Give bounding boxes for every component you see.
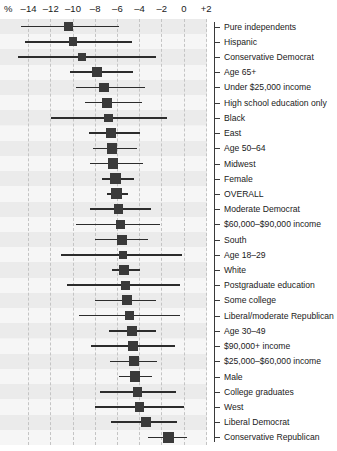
bracket-tick — [214, 87, 220, 88]
category-label: Age 18–29 — [224, 250, 266, 260]
gridline — [161, 19, 163, 445]
category-label: Some college — [224, 295, 276, 305]
bracket-tick — [214, 179, 220, 180]
bracket-tick — [214, 331, 220, 332]
category-label: Age 65+ — [224, 67, 256, 77]
bracket-tick — [214, 285, 220, 286]
category-label: Male — [224, 372, 243, 382]
category-labels-column: Pure independentsHispanicConservative De… — [207, 19, 337, 445]
bracket-tick — [214, 133, 220, 134]
bracket-tick — [214, 422, 220, 423]
bracket-tick — [214, 224, 220, 225]
category-label: Female — [224, 174, 253, 184]
estimate-marker — [69, 37, 78, 46]
bracket-tick — [214, 72, 220, 73]
confidence-interval-whisker — [76, 87, 145, 89]
bracket-tick — [214, 346, 220, 347]
bracket-tick — [214, 103, 220, 104]
confidence-interval-whisker — [85, 102, 142, 104]
category-label: Under $25,000 income — [224, 82, 311, 92]
axis-tick-label: +2 — [201, 4, 212, 14]
estimate-marker — [106, 128, 116, 138]
category-label: Moderate Democrat — [224, 204, 300, 214]
bracket-tick — [214, 407, 220, 408]
estimate-marker — [92, 67, 102, 77]
estimate-marker — [99, 83, 109, 93]
gridline — [95, 19, 97, 445]
category-label: OVERALL — [224, 189, 264, 199]
gridline — [28, 19, 30, 445]
row-band — [0, 323, 207, 338]
estimate-marker — [111, 188, 122, 199]
axis-tick-label: –8 — [90, 4, 101, 14]
gridline — [50, 19, 52, 445]
bracket-tick — [214, 255, 220, 256]
bracket-tick — [214, 118, 220, 119]
gridline — [73, 19, 75, 445]
row-band — [0, 354, 207, 369]
category-label: White — [224, 265, 246, 275]
category-label: East — [224, 128, 241, 138]
estimate-marker — [127, 326, 137, 336]
estimate-marker — [114, 204, 124, 214]
category-label: South — [224, 235, 246, 245]
bracket-tick — [214, 164, 220, 165]
confidence-interval-whisker — [18, 56, 157, 58]
axis-unit-label: % — [4, 4, 12, 14]
forest-plot-chart: % –14–12–10–8–6–4–20+2 Pure independents… — [0, 0, 337, 451]
estimate-marker — [119, 265, 130, 276]
axis-tick-label: 0 — [181, 4, 186, 14]
estimate-marker — [110, 173, 121, 184]
bracket-tick — [214, 148, 220, 149]
estimate-marker — [130, 371, 141, 382]
axis-tick-label: –4 — [134, 4, 145, 14]
category-label: Age 50–64 — [224, 143, 266, 153]
axis-tick-label: –2 — [156, 4, 167, 14]
plot-area — [0, 19, 207, 445]
bracket-tick — [214, 377, 220, 378]
category-label: High school education only — [224, 98, 327, 108]
estimate-marker — [116, 220, 125, 229]
category-label: Age 30–49 — [224, 326, 266, 336]
estimate-marker — [141, 417, 151, 427]
estimate-marker — [125, 311, 134, 320]
estimate-marker — [104, 114, 113, 123]
estimate-marker — [102, 98, 112, 108]
category-label: Black — [224, 113, 245, 123]
category-label: Liberal/moderate Republican — [224, 311, 334, 321]
category-label: Midwest — [224, 159, 256, 169]
estimate-marker — [108, 158, 118, 168]
bracket-tick — [214, 42, 220, 43]
category-label: Liberal Democrat — [224, 417, 289, 427]
bracket-tick — [214, 27, 220, 28]
bracket-spine — [214, 22, 215, 442]
estimate-marker — [122, 295, 132, 305]
row-band — [0, 369, 207, 384]
bracket-tick — [214, 209, 220, 210]
bracket-tick — [214, 194, 220, 195]
bracket-tick — [214, 270, 220, 271]
bracket-tick — [214, 240, 220, 241]
estimate-marker — [117, 235, 127, 245]
category-label: $60,000–$90,000 income — [224, 219, 321, 229]
row-band — [0, 186, 207, 201]
category-label: West — [224, 402, 243, 412]
estimate-marker — [78, 53, 86, 61]
bracket-tick — [214, 57, 220, 58]
estimate-marker — [135, 402, 144, 411]
category-label: Hispanic — [224, 37, 257, 47]
category-label: $25,000–$60,000 income — [224, 356, 321, 366]
estimate-marker — [107, 143, 117, 153]
gridline — [184, 19, 186, 445]
estimate-marker — [129, 356, 139, 366]
bracket-tick — [214, 300, 220, 301]
row-band — [0, 262, 207, 277]
gridline — [117, 19, 119, 445]
estimate-marker — [133, 387, 143, 397]
confidence-interval-whisker — [25, 41, 132, 43]
estimate-marker — [64, 22, 73, 31]
category-label: College graduates — [224, 387, 294, 397]
bracket-tick — [214, 316, 220, 317]
x-axis: % –14–12–10–8–6–4–20+2 — [0, 0, 337, 20]
axis-tick-label: –6 — [112, 4, 123, 14]
